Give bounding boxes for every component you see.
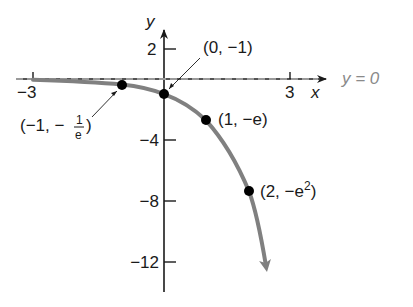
leader-line-0 [169, 58, 200, 89]
point-label-2: (2, −e2) [260, 179, 316, 201]
point-neg1 [117, 80, 127, 90]
y-ticks [164, 49, 176, 262]
x-ticks [33, 72, 290, 79]
point-1 [201, 115, 211, 125]
y-tick-label-neg4: −4 [140, 131, 159, 150]
x-tick-label-neg3: −3 [17, 83, 36, 102]
point-label-0: (0, −1) [203, 38, 253, 57]
y-tick-label-neg8: −8 [140, 192, 159, 211]
point-label-neg1-den: e [75, 128, 82, 142]
point-label-neg1: (−1, − [20, 116, 64, 135]
x-axis-label: x [310, 83, 320, 102]
point-0 [159, 89, 169, 99]
point-label-neg1-num: 1 [76, 113, 83, 127]
asymptote-label: y = 0 [341, 69, 380, 88]
point-2 [244, 186, 254, 196]
y-tick-label-neg12: −12 [130, 253, 159, 272]
exponential-curve [33, 80, 266, 266]
point-label-1: (1, −e) [218, 110, 268, 129]
x-tick-label-3: 3 [285, 83, 294, 102]
y-axis-label: y [145, 12, 156, 31]
y-tick-label-2: 2 [147, 40, 156, 59]
point-label-neg1-close: ) [86, 116, 92, 135]
graph-canvas: −3 3 2 −4 −8 −12 y x y = 0 (−1, − 1 e ) … [0, 0, 413, 307]
